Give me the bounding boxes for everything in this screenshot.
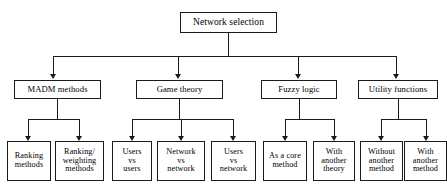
edge-drop-with-another-method [426, 119, 427, 136]
node-ranking-weighting-methods: Ranking/ weighting methods [55, 141, 104, 181]
node-label: Without another method [361, 148, 402, 175]
node-ranking-methods: Ranking methods [7, 141, 51, 181]
node-label: Network vs network [158, 148, 204, 175]
edge-drop-ranking-methods [28, 119, 29, 136]
edge-drop-ranking-weighting-methods [79, 119, 80, 136]
edge-fuzzy-logic-stem [299, 99, 300, 119]
edge-root-bus [53, 56, 396, 57]
node-label: Users vs users [113, 148, 151, 175]
node-label: With another theory [314, 148, 354, 175]
edge-drop-fuzzy-logic [298, 56, 299, 74]
arrowhead-game-theory-icon [175, 74, 181, 79]
node-label: Network selection [181, 17, 276, 27]
edge-game-theory-stem [179, 99, 180, 119]
network-selection-tree-diagram: Network selection MADM methods Game theo… [0, 0, 447, 184]
node-without-another-method: Without another method [360, 141, 403, 181]
node-madm-methods: MADM methods [14, 80, 101, 99]
edge-drop-as-a-core-method [285, 119, 286, 136]
edge-drop-network-vs-network [181, 119, 182, 136]
edge-drop-game-theory [178, 56, 179, 74]
edge-utility-functions-stem [398, 99, 399, 119]
edge-utility-functions-bus [381, 119, 426, 120]
node-label: Utility functions [359, 85, 437, 94]
edge-fuzzy-logic-bus [285, 119, 334, 120]
edge-root-stem [228, 33, 229, 56]
node-label: Ranking/ weighting methods [56, 148, 103, 175]
node-network-selection: Network selection [180, 12, 277, 33]
node-users-vs-users: Users vs users [112, 141, 152, 181]
edge-drop-users-vs-users [132, 119, 133, 136]
node-with-another-method: With another method [404, 141, 447, 181]
edge-drop-madm [53, 56, 54, 74]
node-label: As a core method [264, 152, 306, 170]
edge-drop-without-another-method [381, 119, 382, 136]
edge-drop-with-another-theory [334, 119, 335, 136]
node-label: With another method [405, 148, 446, 175]
node-as-a-core-method: As a core method [263, 141, 307, 181]
node-network-vs-network: Network vs network [157, 141, 205, 181]
edge-game-theory-bus [132, 119, 233, 120]
edge-madm-bus [28, 119, 80, 120]
edge-madm-stem [57, 99, 58, 119]
arrowhead-fuzzy-logic-icon [295, 74, 301, 79]
edge-drop-users-vs-network [233, 119, 234, 136]
node-label: Fuzzy logic [262, 85, 336, 94]
arrowhead-utility-functions-icon [393, 74, 399, 79]
node-label: Users vs network [212, 148, 255, 175]
node-label: Ranking methods [8, 152, 50, 170]
node-label: MADM methods [15, 85, 100, 94]
node-fuzzy-logic: Fuzzy logic [261, 80, 337, 99]
node-game-theory: Game theory [136, 80, 223, 99]
arrowhead-madm-icon [50, 74, 56, 79]
node-users-vs-network: Users vs network [211, 141, 256, 181]
node-with-another-theory: With another theory [313, 141, 355, 181]
node-utility-functions: Utility functions [358, 80, 438, 99]
edge-drop-utility-functions [396, 56, 397, 74]
node-label: Game theory [137, 85, 222, 94]
